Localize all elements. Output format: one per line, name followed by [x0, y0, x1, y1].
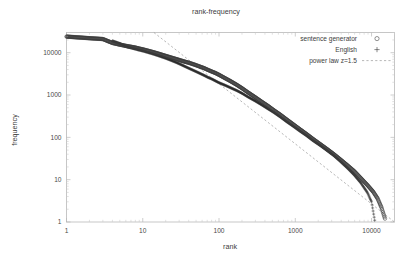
y-tick-label: 10 — [54, 176, 62, 183]
data-point-english — [371, 203, 374, 206]
legend-plus-icon — [374, 47, 379, 52]
data-point-english — [373, 219, 376, 222]
x-tick-label: 100 — [214, 227, 225, 234]
x-tick-label: 10 — [139, 227, 147, 234]
y-axis-label: frequency — [10, 114, 19, 146]
y-tick-label: 100 — [50, 134, 61, 141]
series-english-markers — [111, 39, 376, 221]
data-point-english — [372, 210, 375, 213]
chart-title: rank-frequency — [192, 7, 240, 16]
rank-frequency-chart: rank-frequency 110100100010000 110100100… — [0, 0, 408, 265]
x-axis-label: rank — [223, 242, 237, 251]
chart-legend: sentence generator English power law z=1… — [300, 35, 392, 65]
x-tick-label: 1000 — [288, 227, 303, 234]
data-point-english — [372, 213, 375, 216]
power-law-reference-line — [154, 33, 395, 223]
data-point-english — [371, 206, 374, 209]
legend-label-power-law: power law z=1.5 — [309, 57, 357, 65]
legend-label-english: English — [335, 46, 357, 54]
y-tick-label: 1 — [58, 218, 62, 225]
x-tick-label: 10000 — [362, 227, 381, 234]
y-tick-label: 10000 — [43, 49, 62, 56]
legend-circle-icon — [375, 37, 379, 41]
data-point-english — [373, 216, 376, 219]
y-tick-label: 1000 — [47, 91, 62, 98]
chart-page: rank-frequency 110100100010000 110100100… — [0, 0, 408, 265]
legend-label-sentence-generator: sentence generator — [300, 35, 358, 43]
x-tick-label: 1 — [65, 227, 69, 234]
